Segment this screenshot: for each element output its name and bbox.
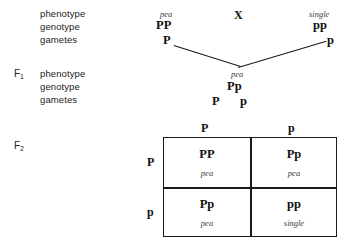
parental-row-label-phenotype: phenotype xyxy=(40,8,85,19)
parent-left-genotype: PP xyxy=(156,18,171,33)
generation-marker-f1: F1 xyxy=(14,68,24,79)
punnett-row-header-1: P xyxy=(147,155,154,170)
connector-line-right xyxy=(238,41,326,68)
f1-row-label-phenotype: phenotype xyxy=(40,68,85,79)
punnett-cell-3: Pp pea xyxy=(164,188,250,237)
parental-row-label-genotype: genotype xyxy=(40,21,80,32)
connector-line-left xyxy=(174,45,241,67)
f1-row-label-genotype: genotype xyxy=(40,81,80,92)
parent-right-genotype: pp xyxy=(313,18,327,33)
f1-genotype: Pp xyxy=(227,79,242,94)
genetics-cross-diagram: phenotype genotype gametes pea PP P X si… xyxy=(0,0,348,252)
punnett-cell-4: pp single xyxy=(251,188,337,237)
punnett-column-header-1: P xyxy=(201,121,208,136)
parent-left-gametes: P xyxy=(163,33,171,48)
punnett-column-header-2: p xyxy=(288,121,295,136)
punnett-cell-2-phenotype: pea xyxy=(288,168,300,178)
generation-marker-f2: F2 xyxy=(14,140,24,151)
punnett-cell-2: Pp pea xyxy=(251,138,337,187)
parental-row-label-gametes: gametes xyxy=(40,34,77,45)
cross-symbol: X xyxy=(234,8,243,23)
punnett-cell-3-phenotype: pea xyxy=(201,218,213,228)
f1-gamete-right: p xyxy=(240,94,247,109)
punnett-cell-1-genotype: PP xyxy=(199,147,214,162)
parent-right-gametes: p xyxy=(327,33,334,48)
f1-row-label-gametes: gametes xyxy=(40,94,77,105)
f1-subscript: 1 xyxy=(20,73,24,80)
f1-phenotype: pea xyxy=(231,69,243,79)
punnett-cell-1: PP pea xyxy=(164,138,250,187)
punnett-cell-3-genotype: Pp xyxy=(200,197,215,212)
f1-gamete-left: P xyxy=(212,94,220,109)
punnett-cell-1-phenotype: pea xyxy=(201,168,213,178)
punnett-square: PP pea Pp pea Pp pea pp single xyxy=(163,137,337,237)
punnett-cell-4-genotype: pp xyxy=(287,197,301,212)
punnett-cell-2-genotype: Pp xyxy=(287,147,302,162)
punnett-row-header-2: p xyxy=(147,205,154,220)
punnett-cell-4-phenotype: single xyxy=(284,218,304,228)
f2-subscript: 2 xyxy=(20,145,24,152)
